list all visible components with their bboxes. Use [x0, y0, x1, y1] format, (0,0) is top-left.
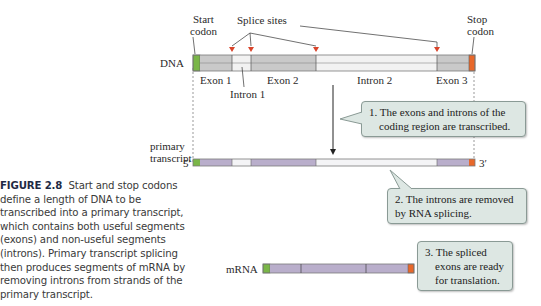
pt-exon1: [200, 159, 232, 166]
pt-intron2: [316, 159, 437, 166]
callout-step-3-line-1: 3. The spliced: [425, 246, 487, 258]
primary-transcript-label-1: primary: [150, 140, 185, 152]
start-codon-block: [193, 55, 200, 71]
dna-strand: [193, 55, 475, 71]
start-codon-label-2: codon: [190, 25, 217, 37]
stop-codon-label-1: Stop: [467, 13, 487, 25]
figure-label: FIGURE 2.8: [0, 180, 62, 191]
caption-text: Start and stop codons define a length of…: [0, 180, 185, 300]
exon1-label: Exon 1: [200, 74, 231, 86]
mrna-exons: [270, 264, 408, 273]
splice-sites-label: Splice sites: [237, 14, 287, 26]
dna-label: DNA: [160, 57, 184, 69]
intron1-label: Intron 1: [230, 88, 265, 100]
figure-caption: FIGURE 2.8 Start and stop codons define …: [0, 179, 200, 301]
callout-step-2-line-2: by RNA splicing.: [395, 206, 519, 220]
callout-step-2-line-1: 2. The introns are removed: [395, 193, 514, 205]
callout-step-2: 2. The introns are removed by RNA splici…: [387, 188, 527, 224]
five-prime-label: 5′: [183, 157, 191, 169]
callout-step-1: 1. The exons and introns of the coding r…: [361, 101, 526, 137]
pt-exon2: [251, 159, 316, 166]
stop-codon-label-2: codon: [467, 25, 494, 37]
pt-start-codon: [193, 159, 200, 166]
exon2-label: Exon 2: [267, 74, 298, 86]
callout-step-1-line-2: coding region are transcribed.: [369, 119, 518, 133]
transcription-arrow-head: [330, 149, 336, 155]
pt-stop-codon: [469, 159, 475, 166]
splice-arrows: [229, 47, 440, 52]
start-codon-label-1: Start: [193, 13, 214, 25]
stop-codon-pointer: [472, 37, 474, 54]
pt-intron1: [232, 159, 251, 166]
pt-exon3: [437, 159, 469, 166]
callout-step-3-line-2: exons are ready: [425, 259, 505, 273]
mrna-label: mRNA: [226, 263, 258, 275]
callout-step-3-line-3: for translation.: [425, 273, 505, 287]
callout-step-3: 3. The spliced exons are ready for trans…: [417, 241, 513, 291]
mrna-strand: [263, 264, 414, 273]
three-prime-label: 3′: [479, 157, 487, 169]
primary-transcript-strand: [193, 159, 475, 166]
stop-codon-block: [469, 55, 475, 71]
callout-step-1-line-1: 1. The exons and introns of the: [369, 106, 505, 118]
mrna-stop-codon: [408, 264, 414, 273]
intron2-label: Intron 2: [357, 74, 392, 86]
mrna-start-codon: [263, 264, 270, 273]
exon3-label: Exon 3: [436, 74, 467, 86]
splice-site-pointers: [232, 26, 437, 47]
start-codon-pointer: [193, 37, 195, 54]
